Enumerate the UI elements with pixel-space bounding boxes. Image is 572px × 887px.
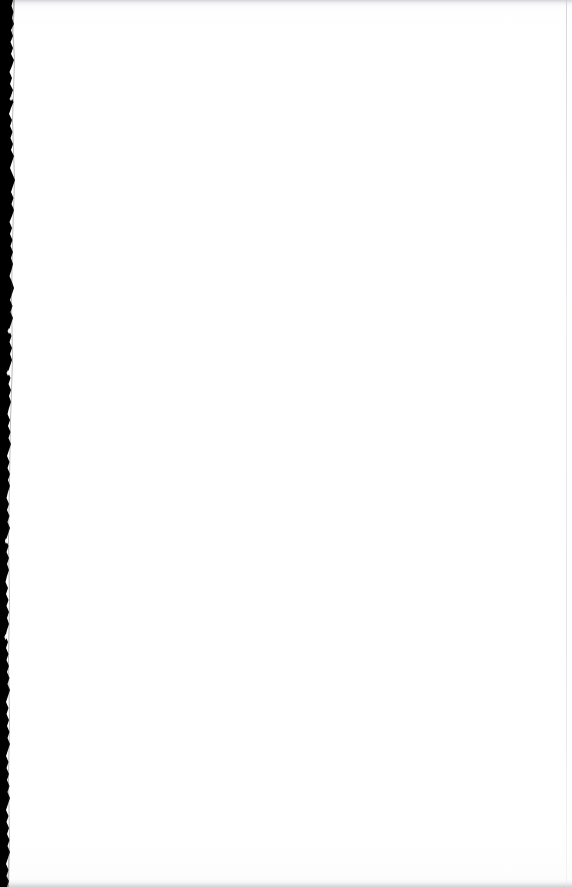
top-scan-band bbox=[0, 0, 572, 9]
binding-edge-shadow bbox=[0, 0, 30, 887]
binding-edge-shape bbox=[0, 0, 30, 887]
page-content bbox=[40, 60, 540, 820]
bottom-scan-band bbox=[0, 877, 572, 887]
scanned-page bbox=[0, 0, 572, 887]
page-edge-line bbox=[566, 0, 567, 887]
